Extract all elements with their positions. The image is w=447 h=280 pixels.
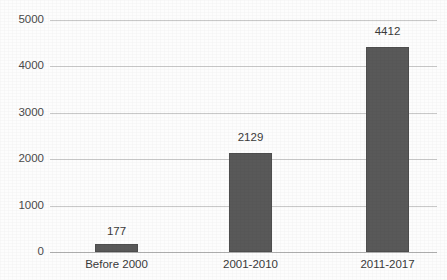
y-tick-label-1000: 1000 bbox=[0, 200, 44, 212]
bar-chart: 5000 4000 3000 2000 1000 0 177 2129 4412… bbox=[0, 0, 447, 280]
bar-value-label-2001-2010: 2129 bbox=[207, 132, 294, 144]
x-axis-category-label-before-2000: Before 2000 bbox=[61, 259, 172, 271]
bar-2011-2017 bbox=[366, 47, 409, 252]
y-axis-tick-labels: 5000 4000 3000 2000 1000 0 bbox=[0, 20, 44, 252]
bar-value-label-2011-2017: 4412 bbox=[344, 26, 431, 38]
y-tick-label-4000: 4000 bbox=[0, 61, 44, 73]
gridline-5000 bbox=[50, 20, 437, 21]
bar-2001-2010 bbox=[229, 153, 272, 252]
y-tick-label-0: 0 bbox=[0, 246, 44, 258]
axis-baseline bbox=[50, 252, 437, 253]
bar-before-2000 bbox=[95, 244, 138, 252]
y-tick-label-3000: 3000 bbox=[0, 107, 44, 119]
x-axis-category-label-2011-2017: 2011-2017 bbox=[332, 259, 443, 271]
y-tick-label-5000: 5000 bbox=[0, 14, 44, 26]
x-axis-category-label-2001-2010: 2001-2010 bbox=[195, 259, 306, 271]
bar-value-label-before-2000: 177 bbox=[73, 226, 160, 238]
y-tick-label-2000: 2000 bbox=[0, 153, 44, 165]
